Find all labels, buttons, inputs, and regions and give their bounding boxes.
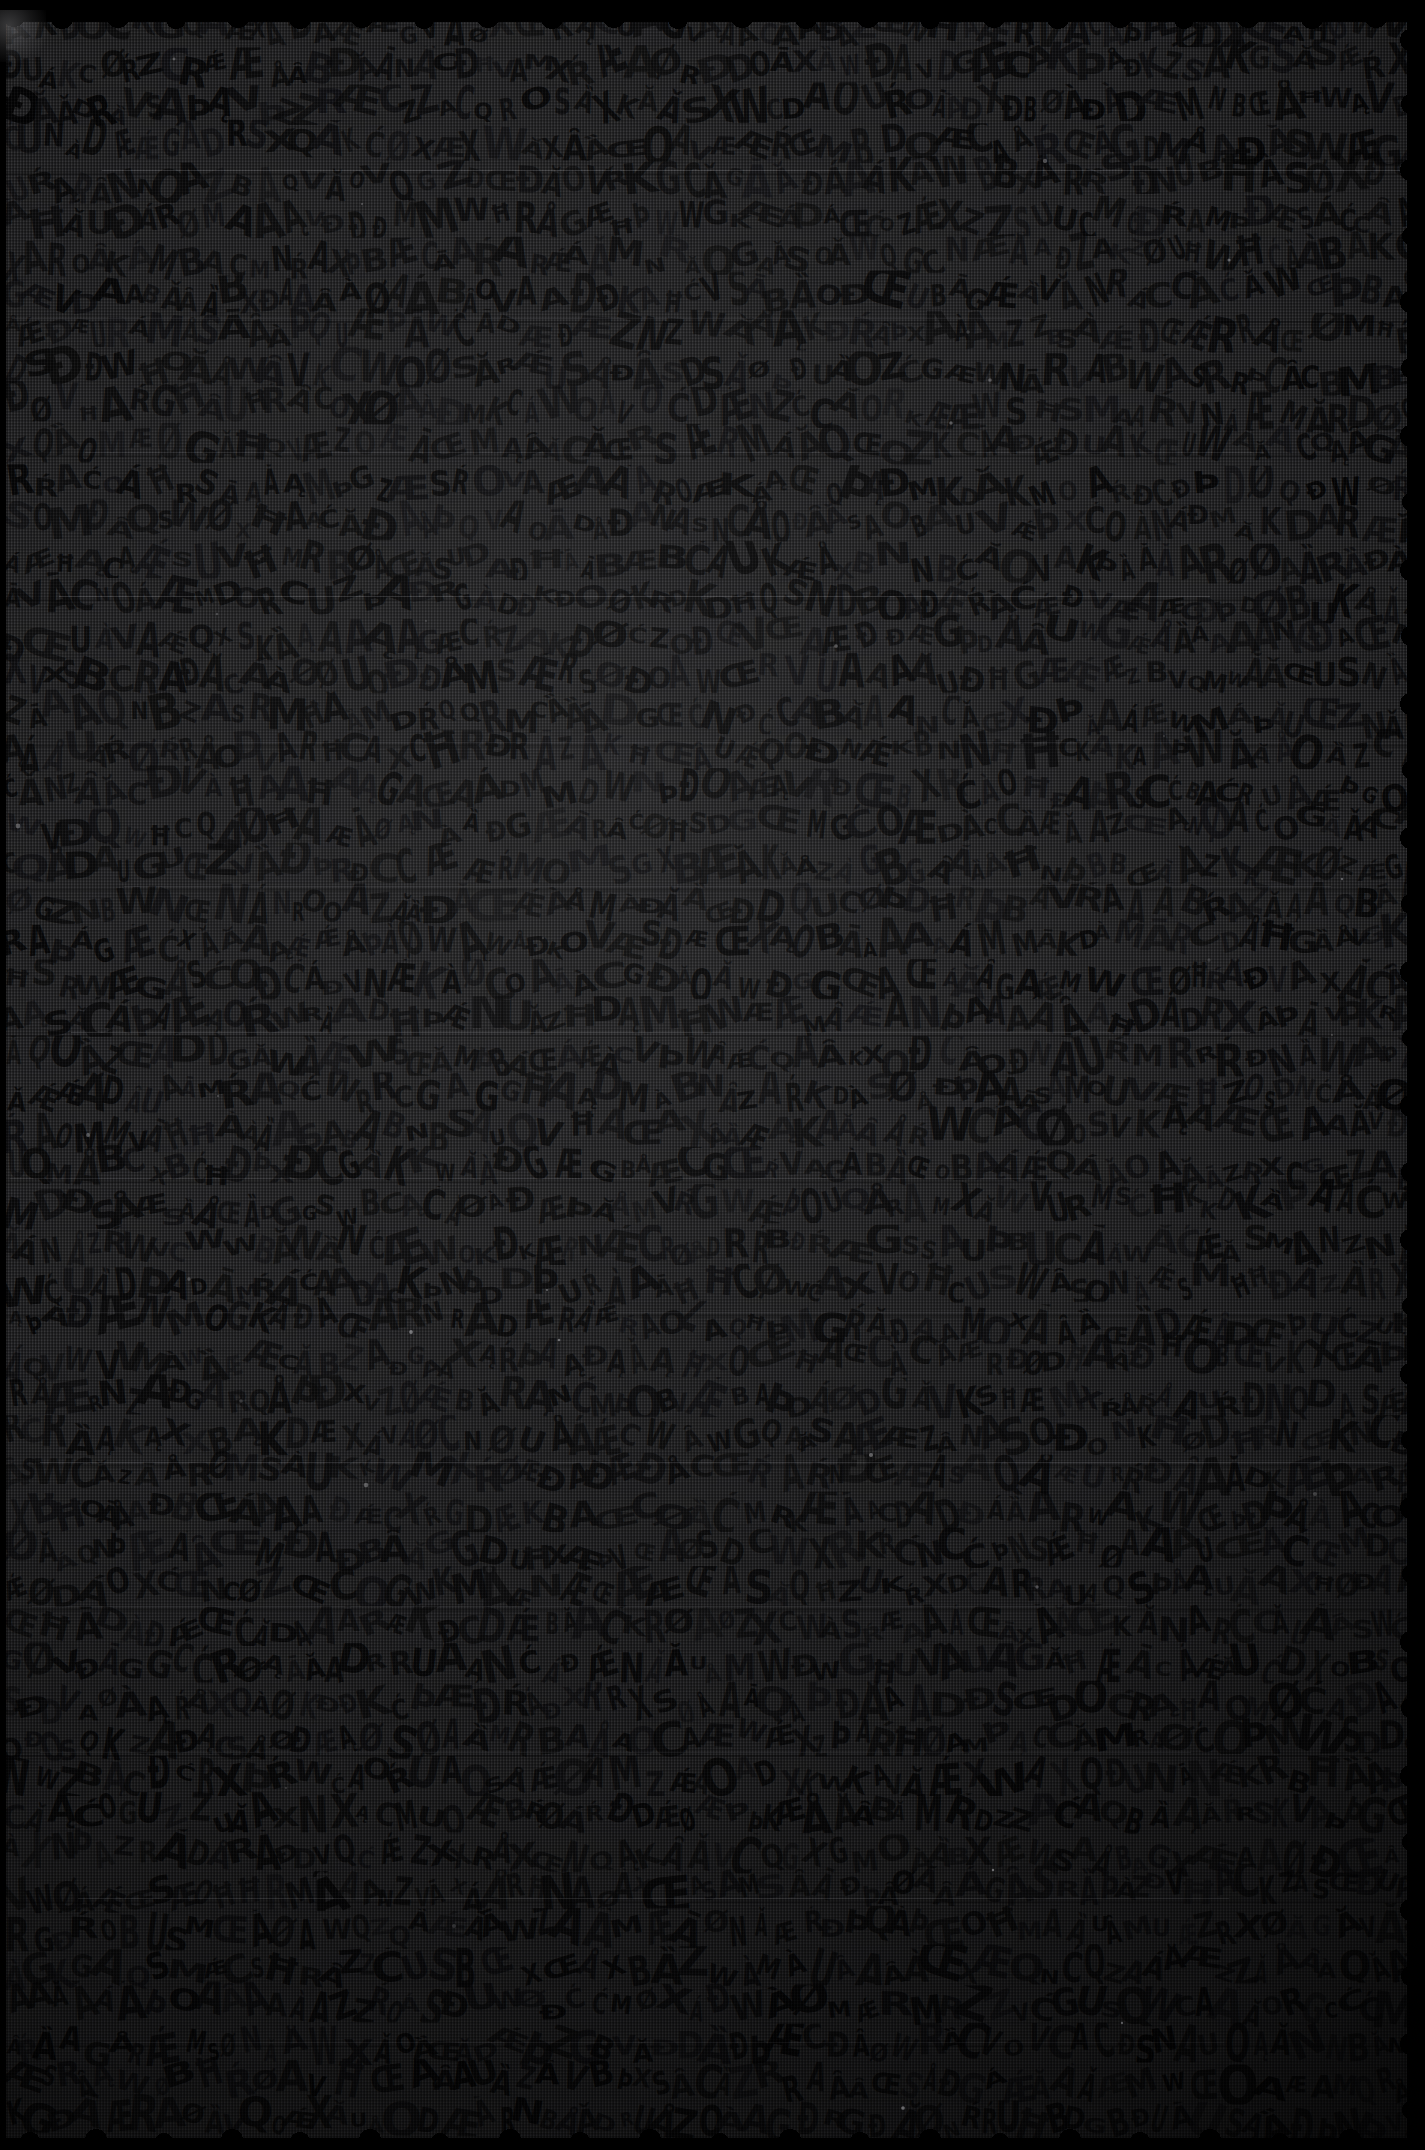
glyph: Ā: [133, 1462, 161, 1493]
glyph: Ð: [274, 842, 316, 887]
glyph: Ø: [1154, 1715, 1196, 1758]
glyph: Œ: [1189, 2060, 1218, 2106]
glyph: Å: [660, 1452, 692, 1492]
glyph: Ø: [1168, 959, 1192, 999]
glyph: Æ: [683, 923, 709, 955]
glyph: Ø: [265, 1908, 299, 1951]
inscription-row: MDÐSÅÆSȀÅŒȀDGGSWBCĄĆĂØÀĐÆÞĂÅMVŔGWǼÞOUQÅR…: [4, 1178, 1408, 1230]
glyph: Đ: [324, 1490, 355, 1532]
glyph: R: [544, 14, 576, 48]
glyph: G: [832, 2096, 870, 2140]
glyph: Œ: [904, 959, 939, 998]
glyph: D: [779, 90, 805, 126]
glyph: Ȁ: [1115, 546, 1138, 585]
glyph: À: [818, 1611, 842, 1646]
manuscript-substrate: ÅXÐOCKGQĂǼXȀÐȀÆÆGVÅØXŒRĄCUÁGVĄÅȀĆĂÁÐĂZ…: [4, 14, 1408, 2140]
glyph: Z: [1005, 313, 1025, 354]
glyph: Æ: [697, 1713, 736, 1758]
glyph: Ȁ: [368, 1294, 397, 1341]
glyph: Ǎ: [1199, 1799, 1223, 1831]
inscription-row: AĄSǍĆÁÞAÆĄOŔWRȀĂDĦÞǼNUĂZĦDĄMĦWÆǼMȂǼANÞĄ…: [4, 995, 1408, 1037]
glyph: M: [605, 1756, 644, 1796]
glyph: Ǎ: [6, 1083, 27, 1113]
glyph: Ǽ: [200, 46, 228, 80]
glyph: X: [1388, 1260, 1408, 1307]
glyph: Ø: [590, 614, 630, 654]
glyph: À: [90, 842, 119, 883]
glyph: D: [283, 1415, 311, 1455]
glyph: O: [1001, 2030, 1025, 2065]
glyph: Đ: [1058, 579, 1087, 615]
glyph: K: [618, 154, 659, 204]
glyph: Æ: [432, 1680, 473, 1714]
glyph: M: [1016, 1915, 1042, 1946]
glyph: O: [353, 422, 376, 465]
glyph: Đ: [504, 1178, 536, 1221]
glyph: Ȁ: [1016, 806, 1038, 847]
glyph: Ă: [663, 1643, 687, 1684]
glyph: W: [1161, 2065, 1187, 2099]
glyph: M: [1130, 1039, 1163, 1070]
glyph: Ȃ: [1363, 196, 1398, 231]
glyph: Œ: [1230, 1333, 1267, 1382]
glyph: Ǎ: [623, 1333, 651, 1383]
glyph: Æ: [568, 311, 613, 345]
glyph: Ā: [898, 1178, 928, 1230]
inscription-row: CǍĄĆOGUZZUĂĀXNXĄCMUQǼBŔØÁŔĐDǼØÆÞÞKÆÅÅȂB…: [4, 1792, 1408, 1834]
glyph: N: [237, 2021, 264, 2061]
inscription-row: ȂSWCǍZĀÅRØMSÀUKKWMXŔØÆĐAÐÆÐÅĆŒŔȀŔNĐŒÆĂSĂ…: [4, 1450, 1408, 1497]
glyph: Ð: [1000, 81, 1023, 126]
glyph: R: [985, 1339, 1003, 1382]
glyph: Á: [561, 238, 589, 272]
inscription-row: ǍÁNÅZŔWVCWWBĂNȀNĆÆWOKĐKÆRNǼĆRØÅDRŔBÐŔÆG…: [4, 1224, 1408, 1265]
glyph: S: [496, 653, 517, 688]
glyph: Q: [1391, 152, 1408, 184]
glyph: Ǎ: [709, 959, 738, 999]
glyph: Z: [664, 314, 685, 352]
glyph: Ǎ: [1060, 806, 1085, 850]
glyph: W: [322, 1910, 351, 1947]
glyph: Ħ: [235, 1869, 263, 1913]
glyph: N: [1387, 2029, 1407, 2063]
glyph: N: [1317, 1224, 1342, 1258]
glyph: M: [1189, 1260, 1230, 1292]
glyph: Ȃ: [789, 1870, 811, 1902]
glyph: X: [653, 1980, 694, 2021]
glyph: Đ: [796, 2097, 820, 2140]
glyph: À: [483, 1185, 506, 1219]
glyph: Ŕ: [1392, 471, 1408, 507]
glyph: Đ: [955, 658, 988, 693]
glyph: U: [350, 2105, 368, 2136]
glyph: R: [579, 1680, 605, 1720]
glyph: Ā: [838, 653, 864, 694]
glyph: Đ: [906, 1035, 933, 1076]
glyph: Æ: [798, 1490, 840, 1532]
glyph: D: [77, 119, 112, 166]
glyph: Đ: [538, 1996, 568, 2026]
glyph: Ȁ: [461, 804, 483, 842]
glyph: G: [702, 196, 729, 231]
glyph: U: [1194, 2023, 1222, 2066]
glyph: A: [297, 1907, 317, 1951]
glyph: Å: [443, 14, 467, 48]
glyph: Ð: [825, 2021, 850, 2066]
glyph: Ȁ: [1312, 927, 1334, 961]
glyph: Ǽ: [1096, 1643, 1122, 1684]
glyph: Œ: [286, 1567, 334, 1607]
glyph: A: [1132, 735, 1147, 771]
glyph: Q: [388, 1920, 410, 1951]
glyph: G: [995, 962, 1015, 1000]
glyph: X: [4, 653, 27, 694]
glyph: Đ: [952, 1493, 989, 1533]
glyph: R: [6, 1373, 29, 1417]
glyph: Q: [1284, 729, 1329, 771]
glyph: X: [329, 1792, 358, 1834]
glyph: W: [434, 1154, 455, 1190]
glyph: Ć: [362, 125, 387, 163]
glyph: Ŕ: [1392, 312, 1408, 354]
inscription-glyph-field: ÅXÐOCKGQĂǼXȀÐȀÆÆGVÅØXŒRĄCUÁGVĄÅȀĆĂÁÐĂZ…: [4, 14, 1408, 2140]
glyph: Ǽ: [682, 1373, 732, 1419]
glyph: N: [944, 228, 969, 271]
glyph: V: [1363, 79, 1395, 122]
glyph: Ǎ: [275, 2056, 307, 2097]
